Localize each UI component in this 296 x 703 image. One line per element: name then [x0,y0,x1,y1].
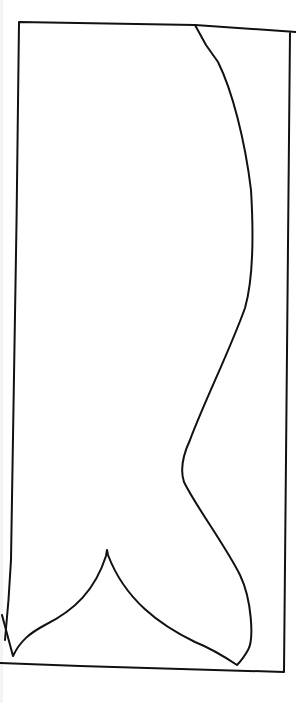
drawing-canvas [0,0,296,703]
mermaid-tail-outline [2,25,253,665]
frame-outline [0,22,296,672]
line-drawing [0,0,296,703]
